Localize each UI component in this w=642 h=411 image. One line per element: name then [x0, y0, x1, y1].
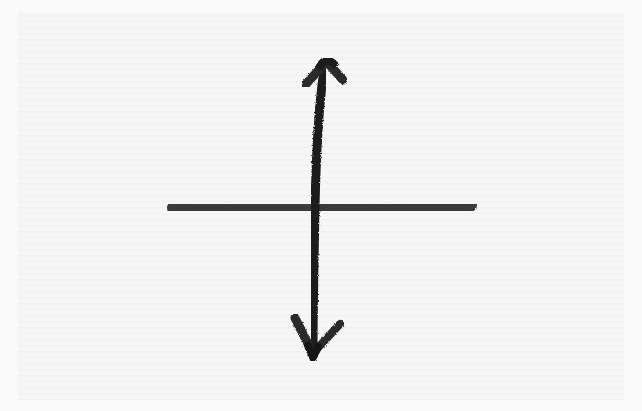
cross-arrow-diagram [0, 0, 642, 411]
sketch-canvas: Hand-drawn charcoal sketch of a cross: a… [0, 0, 642, 411]
horizontal-line [174, 205, 470, 210]
